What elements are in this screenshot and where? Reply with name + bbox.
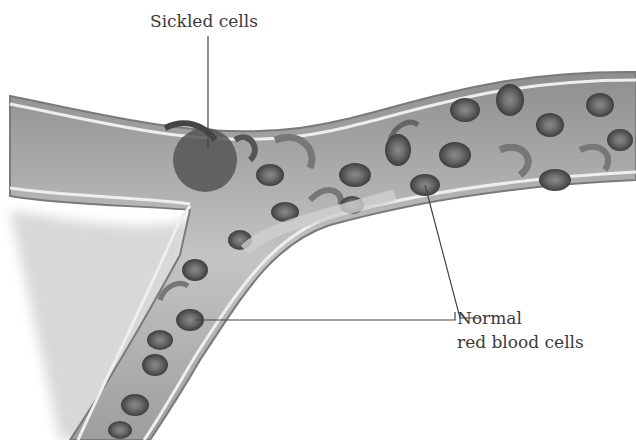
- normal-cells-label-line1: Normal: [457, 307, 522, 329]
- blood-vessel-diagram: [0, 0, 636, 440]
- sickled-cells-label: Sickled cells: [150, 10, 258, 32]
- normal-cells-label-line2: red blood cells: [457, 331, 584, 353]
